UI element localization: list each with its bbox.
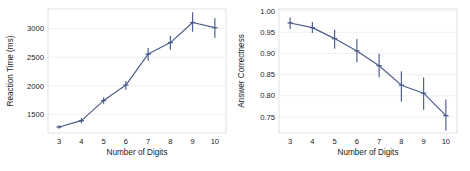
y-tick-label: 2000: [27, 82, 44, 91]
x-tick-label: 10: [211, 137, 219, 146]
y-tick-label: 2500: [27, 53, 44, 62]
x-tick-label: 10: [442, 137, 450, 146]
y-axis-label: Answer Correctness: [237, 34, 246, 108]
y-tick-label: 1500: [27, 110, 44, 119]
y-tick-label: 0.80: [260, 91, 275, 100]
x-tick-label: 5: [333, 137, 337, 146]
panel-answer-correctness: 0.750.800.850.900.951.00345678910Number …: [235, 0, 470, 171]
x-tick-label: 7: [377, 137, 381, 146]
x-tick-label: 3: [288, 137, 292, 146]
y-tick-label: 1.00: [260, 7, 275, 16]
x-axis-label: Number of Digits: [338, 148, 399, 157]
answer-correctness-plot: 0.750.800.850.900.951.00345678910Number …: [235, 0, 470, 171]
x-tick-label: 4: [79, 137, 83, 146]
x-tick-label: 4: [310, 137, 314, 146]
y-tick-label: 0.75: [260, 113, 275, 122]
y-axis-label: Reaction Time (ms): [6, 35, 15, 106]
x-tick-label: 5: [102, 137, 106, 146]
x-tick-label: 9: [422, 137, 426, 146]
x-tick-label: 3: [57, 137, 61, 146]
x-tick-label: 7: [146, 137, 150, 146]
x-tick-label: 6: [124, 137, 128, 146]
x-tick-label: 6: [355, 137, 359, 146]
y-tick-label: 0.95: [260, 28, 275, 37]
figure-two-panel-line-charts: 1500200025003000345678910Number of Digit…: [0, 0, 470, 171]
plot-frame: [279, 9, 457, 133]
reaction-time-plot: 1500200025003000345678910Number of Digit…: [0, 0, 235, 171]
y-tick-label: 3000: [27, 24, 44, 33]
x-tick-label: 8: [168, 137, 172, 146]
panel-reaction-time: 1500200025003000345678910Number of Digit…: [0, 0, 235, 171]
x-axis-label: Number of Digits: [107, 148, 168, 157]
y-tick-label: 0.90: [260, 49, 275, 58]
x-tick-label: 8: [399, 137, 403, 146]
y-tick-label: 0.85: [260, 70, 275, 79]
x-tick-label: 9: [191, 137, 195, 146]
